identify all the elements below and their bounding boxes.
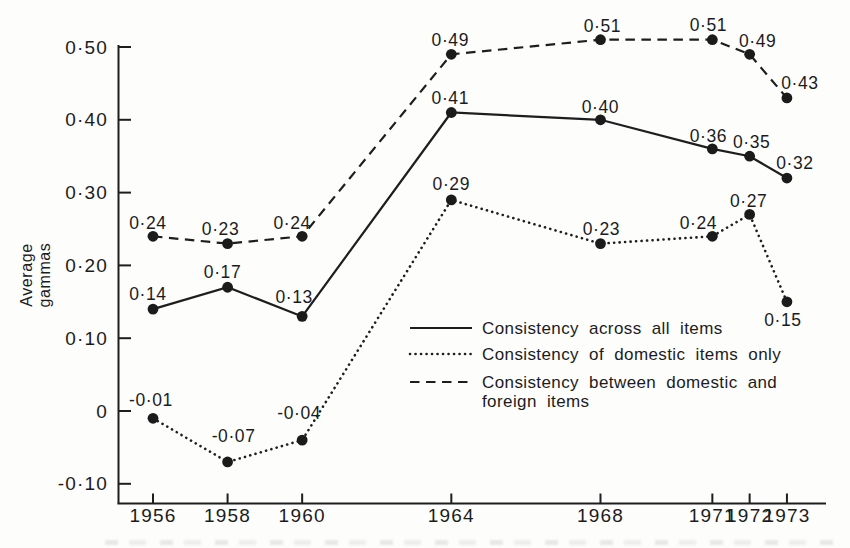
data-point xyxy=(222,238,233,249)
point-label: 0·40 xyxy=(582,97,619,117)
data-point xyxy=(148,413,159,424)
data-point xyxy=(782,296,793,307)
data-point xyxy=(148,304,159,315)
data-point xyxy=(595,238,606,249)
point-label: 0·51 xyxy=(690,15,727,35)
y-tick-label: 0·20 xyxy=(65,255,108,276)
legend-label: Consistency across all items xyxy=(482,319,723,338)
data-point xyxy=(595,34,606,45)
point-label: 0·32 xyxy=(776,153,813,173)
y-tick-label: 0·30 xyxy=(65,182,108,203)
y-tick-label: 0·10 xyxy=(65,328,108,349)
point-label: 0·24 xyxy=(273,213,310,233)
x-tick-label: 1956 xyxy=(129,505,176,526)
legend-label: Consistency between domestic and xyxy=(482,373,777,392)
point-label: 0·49 xyxy=(432,30,469,50)
point-label: 0·41 xyxy=(432,88,469,108)
point-label: 0·43 xyxy=(781,73,818,93)
data-point xyxy=(782,173,793,184)
point-label: 0·23 xyxy=(202,219,239,239)
data-point xyxy=(782,93,793,104)
point-label: 0·24 xyxy=(680,213,717,233)
data-point xyxy=(744,151,755,162)
y-tick-label: 0·50 xyxy=(65,37,108,58)
point-label: 0·15 xyxy=(764,310,801,330)
point-label: 0·35 xyxy=(733,132,770,152)
data-point xyxy=(446,194,457,205)
data-point xyxy=(446,49,457,60)
data-point xyxy=(446,107,457,118)
point-label: 0·29 xyxy=(433,174,470,194)
data-point xyxy=(707,34,718,45)
cropped-caption-remnant xyxy=(105,540,835,545)
point-label: 0·23 xyxy=(583,219,620,239)
x-tick-label: 1964 xyxy=(428,505,475,526)
legend-label-line2: foreign items xyxy=(482,392,590,411)
data-point xyxy=(297,311,308,322)
data-point xyxy=(222,282,233,293)
y-tick-label: 0·40 xyxy=(65,109,108,130)
y-tick-label: -0·10 xyxy=(58,473,108,494)
legend-label: Consistency of domestic items only xyxy=(482,345,781,364)
point-label: 0·51 xyxy=(584,16,621,36)
point-label: 0·36 xyxy=(690,126,727,146)
point-label: 0·17 xyxy=(204,262,241,282)
line-chart: 0·500·400·300·200·100-0·1019561958196019… xyxy=(0,0,850,548)
point-label: 0·27 xyxy=(730,191,767,211)
y-axis-title: Average gammas xyxy=(18,213,54,338)
x-tick-label: 1973 xyxy=(763,505,810,526)
point-label: -0·04 xyxy=(277,403,321,423)
x-tick-label: 1958 xyxy=(204,505,251,526)
point-label: 0·14 xyxy=(129,284,166,304)
point-label: -0·07 xyxy=(212,426,256,446)
data-point xyxy=(297,435,308,446)
x-tick-label: 1968 xyxy=(577,505,624,526)
data-point xyxy=(222,457,233,468)
point-label: 0·13 xyxy=(275,287,312,307)
y-tick-label: 0 xyxy=(96,401,108,422)
x-tick-label: 1960 xyxy=(279,505,326,526)
point-label: 0·49 xyxy=(739,31,776,51)
point-label: 0·24 xyxy=(129,213,166,233)
chart-figure: 0·500·400·300·200·100-0·1019561958196019… xyxy=(0,0,850,548)
point-label: -0·01 xyxy=(129,390,173,410)
